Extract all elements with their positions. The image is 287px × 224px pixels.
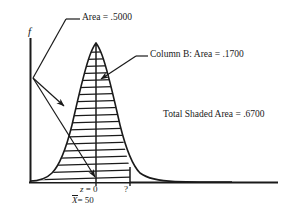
mean-value: = 50: [78, 195, 94, 205]
annotation-column-b: Column B: Area = .1700: [150, 50, 244, 60]
x-bar-symbol: X: [72, 196, 78, 205]
y-axis-label: f: [28, 26, 31, 37]
axis-label-unknown: ?: [124, 185, 128, 194]
shaded-area-hatching: [28, 40, 134, 183]
z-equals-zero: = 0: [84, 184, 98, 194]
annotation-total-shaded-area: Total Shaded Area = .6700: [163, 110, 265, 120]
annotation-area-left: Area = .5000: [82, 13, 132, 23]
axis-label-z-zero: z = 0: [80, 185, 98, 194]
axis-label-mean: X= 50: [72, 196, 94, 205]
